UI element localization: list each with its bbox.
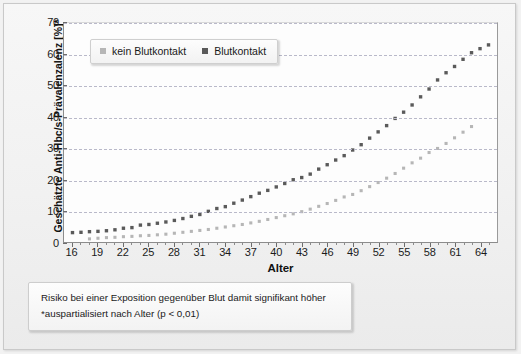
data-point: [190, 215, 193, 218]
data-point: [334, 158, 337, 161]
data-point: [334, 199, 337, 202]
x-tick-mark-minor: [464, 243, 465, 245]
gridline: [64, 181, 497, 182]
x-tick-mark-minor: [319, 243, 320, 245]
x-tick-mark-minor: [344, 243, 345, 245]
gridline: [64, 118, 497, 119]
data-point: [351, 193, 354, 196]
x-tick-mark-minor: [191, 243, 192, 245]
data-point: [71, 231, 74, 234]
y-tick-label: 50: [29, 79, 59, 91]
data-point: [88, 230, 91, 233]
legend-item-blutkontakt[interactable]: Blutkontakt: [202, 45, 266, 57]
x-tick-mark: [225, 243, 226, 247]
data-point: [376, 130, 379, 133]
x-tick-mark: [379, 243, 380, 247]
data-point: [105, 229, 108, 232]
x-tick-mark-minor: [217, 243, 218, 245]
x-tick-mark: [72, 243, 73, 247]
data-point: [224, 205, 227, 208]
caption-box: Risiko bei einer Exposition gegenüber Bl…: [28, 282, 352, 331]
data-point: [173, 232, 176, 235]
data-point: [224, 225, 227, 228]
legend-item-label: Blutkontakt: [214, 45, 266, 57]
data-point: [461, 131, 464, 134]
data-point: [241, 198, 244, 201]
y-tick-mark: [63, 54, 67, 55]
x-tick-mark-minor: [131, 243, 132, 245]
data-point: [173, 219, 176, 222]
data-point: [343, 195, 346, 198]
data-point: [317, 205, 320, 208]
data-point: [402, 167, 405, 170]
data-point: [411, 161, 414, 164]
x-tick-label: 34: [219, 246, 231, 258]
y-tick-label: 30: [29, 142, 59, 154]
y-tick-label: 10: [29, 205, 59, 217]
data-point: [249, 195, 252, 198]
x-tick-mark-minor: [293, 243, 294, 245]
legend-item-kein-blutkontakt[interactable]: kein Blutkontakt: [100, 45, 186, 57]
x-tick-label: 25: [142, 246, 154, 258]
data-point: [181, 231, 184, 234]
x-tick-mark-minor: [387, 243, 388, 245]
data-point: [419, 157, 422, 160]
x-tick-label: 64: [475, 246, 487, 258]
data-point: [207, 228, 210, 231]
x-tick-mark-minor: [310, 243, 311, 245]
x-tick-mark: [404, 243, 405, 247]
x-tick-mark: [327, 243, 328, 247]
x-tick-mark-minor: [396, 243, 397, 245]
gridline: [64, 212, 497, 213]
data-point: [258, 220, 261, 223]
x-tick-mark-minor: [114, 243, 115, 245]
y-tick-label: 60: [29, 48, 59, 60]
y-tick-mark: [63, 22, 67, 23]
data-point: [368, 136, 371, 139]
data-point: [487, 43, 490, 46]
x-tick-mark: [455, 243, 456, 247]
data-point: [283, 214, 286, 217]
x-tick-mark: [430, 243, 431, 247]
x-tick-mark-minor: [413, 243, 414, 245]
y-tick-mark: [63, 180, 67, 181]
data-point: [470, 125, 473, 128]
data-point: [410, 103, 413, 106]
data-point: [232, 202, 235, 205]
data-point: [147, 234, 150, 237]
data-point: [130, 226, 133, 229]
legend-item-label: kein Blutkontakt: [112, 45, 186, 57]
caption-line-1: Risiko bei einer Exposition gegenüber Bl…: [41, 290, 339, 306]
data-point: [215, 227, 218, 230]
x-tick-mark-minor: [362, 243, 363, 245]
data-point: [130, 235, 133, 238]
data-point: [360, 189, 363, 192]
x-tick-mark-minor: [165, 243, 166, 245]
data-point: [241, 223, 244, 226]
x-tick-mark-minor: [182, 243, 183, 245]
data-point: [478, 47, 481, 50]
y-tick-label: 40: [29, 111, 59, 123]
x-tick-mark-minor: [421, 243, 422, 245]
data-point: [181, 217, 184, 220]
x-tick-mark-minor: [370, 243, 371, 245]
data-point: [385, 124, 388, 127]
data-point: [436, 78, 439, 81]
data-point: [385, 177, 388, 180]
data-point: [428, 151, 431, 154]
data-point: [122, 227, 125, 230]
data-point: [105, 236, 108, 239]
data-point: [394, 172, 397, 175]
data-point: [266, 189, 269, 192]
data-point: [453, 136, 456, 139]
x-tick-mark: [174, 243, 175, 247]
data-point: [156, 233, 159, 236]
data-point: [147, 223, 150, 226]
chart-container: Geschätzte Anti-Hbc/s-Prävalenzalenz [%]…: [26, 10, 506, 270]
data-point: [113, 236, 116, 239]
x-tick-label: 19: [91, 246, 103, 258]
data-point: [164, 233, 167, 236]
series-kein-blutkontakt: [88, 125, 473, 240]
data-point: [190, 230, 193, 233]
data-point: [275, 185, 278, 188]
